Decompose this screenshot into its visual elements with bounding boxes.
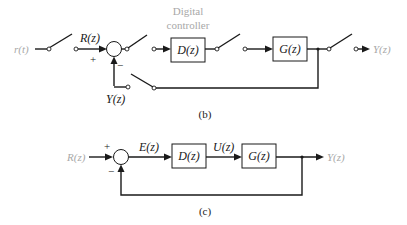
diagram-c: R(z) + − E(z) D(z) U(z) G(z) Y(z) (c) bbox=[66, 140, 345, 218]
controller-caption-line2: controller bbox=[167, 19, 210, 31]
plus-sign: + bbox=[90, 53, 96, 65]
arrow-head-icon bbox=[118, 165, 125, 173]
controller-block-label: D(z) bbox=[177, 149, 199, 163]
plant-block-label: G(z) bbox=[279, 42, 300, 56]
input-signal-label: r(t) bbox=[14, 43, 29, 56]
summing-junction bbox=[107, 42, 122, 57]
sampler-switch-1 bbox=[47, 34, 78, 51]
summing-junction bbox=[114, 150, 129, 165]
arrow-head-icon bbox=[164, 154, 172, 161]
output-label: Y(z) bbox=[373, 43, 391, 56]
minus-sign: − bbox=[108, 165, 114, 177]
diagram-b: r(t) R(z) + − Y(z) Digital bbox=[14, 5, 391, 121]
block-diagrams: r(t) R(z) + − Y(z) Digital bbox=[0, 0, 407, 225]
caption-b: (b) bbox=[199, 108, 212, 121]
feedback-label: Y(z) bbox=[106, 92, 125, 106]
minus-sign: − bbox=[117, 59, 123, 71]
control-label: U(z) bbox=[213, 140, 234, 154]
arrow-head-icon bbox=[99, 46, 107, 53]
output-label: Y(z) bbox=[327, 151, 345, 164]
arrow-head-icon bbox=[265, 46, 273, 53]
arrow-head-icon bbox=[234, 154, 242, 161]
plus-sign: + bbox=[104, 140, 110, 152]
error-label: E(z) bbox=[138, 140, 159, 154]
plant-block-label: G(z) bbox=[248, 149, 269, 163]
feedback-terminal bbox=[126, 85, 130, 89]
caption-c: (c) bbox=[199, 205, 212, 218]
controller-block-label: D(z) bbox=[176, 43, 198, 57]
sampler-switch-4 bbox=[327, 34, 358, 51]
input-label: R(z) bbox=[66, 151, 86, 164]
arrow-head-icon bbox=[362, 46, 370, 53]
arrow-head-icon bbox=[316, 154, 324, 161]
sampler-switch-3 bbox=[215, 34, 247, 51]
arrow-head-icon bbox=[163, 46, 171, 53]
sampler-switch-2 bbox=[125, 35, 156, 51]
reference-label: R(z) bbox=[79, 31, 100, 45]
feedback-switch-arm bbox=[131, 74, 153, 87]
controller-caption-line1: Digital bbox=[173, 5, 204, 17]
arrow-head-icon bbox=[105, 154, 113, 161]
